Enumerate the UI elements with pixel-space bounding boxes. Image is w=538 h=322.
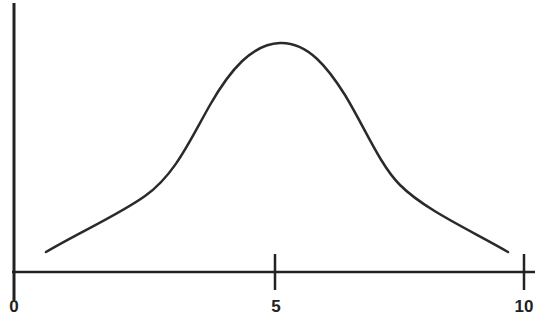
bell-curve-line <box>46 43 508 252</box>
x-tick-label-5: 5 <box>271 297 280 316</box>
bell-curve-diagram: 0 5 10 <box>0 0 538 322</box>
x-tick-label-0: 0 <box>9 297 18 316</box>
x-tick-label-10: 10 <box>515 297 534 316</box>
